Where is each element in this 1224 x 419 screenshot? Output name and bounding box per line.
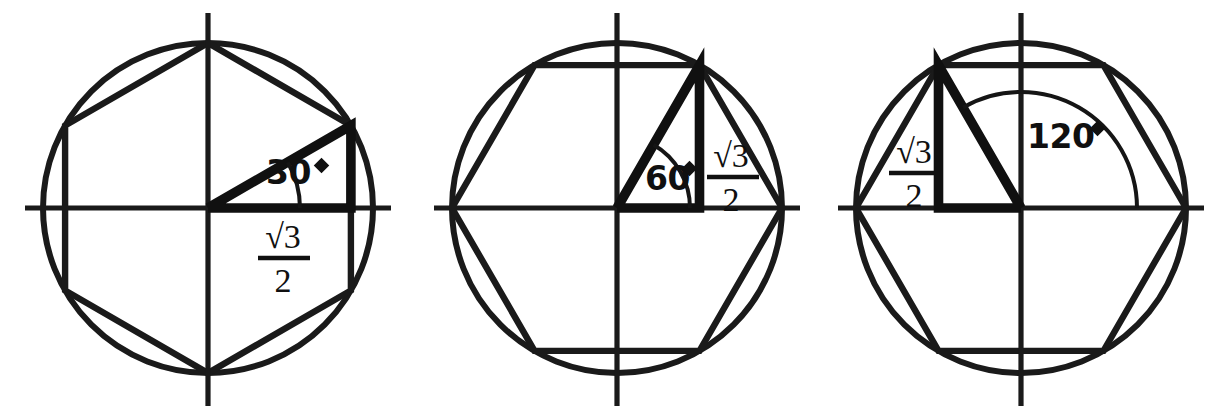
angle-label-value: 60 bbox=[645, 159, 690, 198]
angle-label-value: 30 bbox=[266, 153, 311, 192]
reference-triangle bbox=[939, 65, 1022, 208]
panel-sixty-degree: 60 √3 2 bbox=[409, 0, 817, 419]
hexagon-circle-figure-row: 30 √3 2 60 √3 2 bbox=[0, 0, 1224, 419]
length-label-numerator: √3 bbox=[713, 137, 749, 174]
length-label-numerator: √3 bbox=[896, 133, 932, 170]
length-label-denominator: 2 bbox=[275, 262, 292, 299]
panel-one-hundred-twenty-degree: 120 √3 2 bbox=[817, 0, 1224, 419]
length-label-denominator: 2 bbox=[906, 177, 923, 214]
panel-thirty-degree: 30 √3 2 bbox=[0, 0, 408, 419]
degree-symbol-icon bbox=[314, 158, 330, 174]
length-label-numerator: √3 bbox=[265, 218, 301, 255]
angle-label-value: 120 bbox=[1027, 117, 1094, 156]
length-label-denominator: 2 bbox=[723, 181, 740, 218]
